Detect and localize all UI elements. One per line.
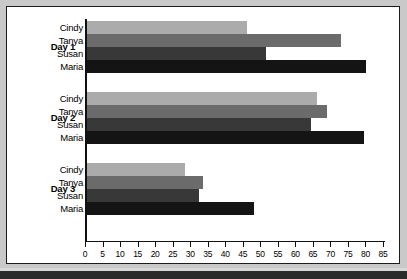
bar-row: Maria	[7, 60, 401, 73]
bar-cindy	[87, 163, 185, 176]
bar-category-label: Cindy	[13, 92, 83, 105]
day-group: Day 2CindyTanyaSusanMaria	[7, 92, 401, 144]
bar-susan	[87, 47, 266, 60]
x-axis-tick	[225, 241, 226, 247]
bar-category-label: Tanya	[13, 105, 83, 118]
x-axis-tick	[365, 241, 366, 247]
x-axis-tick	[295, 241, 296, 247]
day-group: Day 3CindyTanyaSusanMaria	[7, 163, 401, 215]
bar-row: Susan	[7, 118, 401, 131]
x-axis-tick	[103, 241, 104, 247]
bar-chart: Day 1CindyTanyaSusanMariaDay 2CindyTanya…	[7, 7, 401, 265]
x-axis-line	[85, 241, 385, 242]
chart-figure: Day 1CindyTanyaSusanMariaDay 2CindyTanya…	[0, 0, 407, 279]
bar-category-label: Maria	[13, 60, 83, 73]
bar-category-label: Susan	[13, 189, 83, 202]
bar-category-label: Susan	[13, 118, 83, 131]
bar-tanya	[87, 105, 327, 118]
bar-category-label: Tanya	[13, 176, 83, 189]
x-axis-tick	[330, 241, 331, 247]
x-axis-tick	[243, 241, 244, 247]
bar-category-label: Maria	[13, 202, 83, 215]
bar-tanya	[87, 176, 203, 189]
bar-row: Susan	[7, 47, 401, 60]
bar-row: Cindy	[7, 163, 401, 176]
x-axis-tick	[278, 241, 279, 247]
x-axis-tick	[190, 241, 191, 247]
bar-row: Tanya	[7, 105, 401, 118]
day-group: Day 1CindyTanyaSusanMaria	[7, 21, 401, 73]
x-axis-tick	[155, 241, 156, 247]
bar-row: Maria	[7, 131, 401, 144]
bar-cindy	[87, 92, 317, 105]
bar-category-label: Tanya	[13, 34, 83, 47]
bar-category-label: Cindy	[13, 163, 83, 176]
bar-row: Cindy	[7, 92, 401, 105]
plot-frame: Day 1CindyTanyaSusanMariaDay 2CindyTanya…	[6, 6, 400, 264]
x-axis-tick	[313, 241, 314, 247]
x-axis-tick	[383, 241, 384, 247]
x-axis-tick	[260, 241, 261, 247]
bar-susan	[87, 118, 311, 131]
bar-row: Maria	[7, 202, 401, 215]
bar-category-label: Susan	[13, 47, 83, 60]
bar-susan	[87, 189, 199, 202]
bar-tanya	[87, 34, 341, 47]
bar-category-label: Cindy	[13, 21, 83, 34]
x-axis-tick	[138, 241, 139, 247]
bar-category-label: Maria	[13, 131, 83, 144]
bar-maria	[87, 202, 254, 215]
bar-row: Tanya	[7, 176, 401, 189]
x-axis-tick	[85, 241, 86, 247]
x-axis-tick	[173, 241, 174, 247]
x-axis-tick-label: 85	[371, 249, 395, 259]
bar-row: Tanya	[7, 34, 401, 47]
x-axis-tick	[208, 241, 209, 247]
bar-row: Susan	[7, 189, 401, 202]
bar-maria	[87, 60, 366, 73]
x-axis: 0510152025303540455055606570758085	[7, 241, 401, 265]
page-edge-shadow	[0, 271, 407, 279]
bar-row: Cindy	[7, 21, 401, 34]
bar-cindy	[87, 21, 247, 34]
bar-maria	[87, 131, 364, 144]
x-axis-tick	[348, 241, 349, 247]
x-axis-tick	[120, 241, 121, 247]
